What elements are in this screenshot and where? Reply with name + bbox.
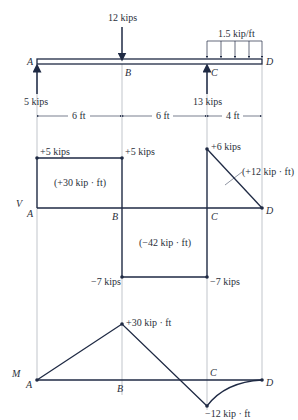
span-AB: 6 ft xyxy=(72,111,86,121)
moment-point-D: D xyxy=(266,378,273,388)
beam-point-A: A xyxy=(27,57,33,67)
moment-diagram xyxy=(37,324,262,406)
shear-point-D: D xyxy=(266,206,273,216)
beam-point-D: D xyxy=(266,57,273,67)
shear-area-AB: (+30 kip · ft) xyxy=(54,178,106,188)
diagram-graphics xyxy=(0,0,298,420)
span-CD: 4 ft xyxy=(226,111,240,121)
beam-point-B: B xyxy=(125,68,131,78)
point-load-label: 12 kips xyxy=(108,13,137,23)
moment-value-B: +30 kip · ft xyxy=(126,318,171,328)
reaction-A-label: 5 kips xyxy=(24,97,48,107)
reaction-C-label: 13 kips xyxy=(193,97,222,107)
beam-diagram: 12 kips 1.5 kip/ft A B C D 5 kips 13 kip… xyxy=(0,0,298,420)
moment-axis-label: M xyxy=(12,369,20,379)
moment-point-C: C xyxy=(210,368,217,378)
shear-area-BC: (−42 kip · ft) xyxy=(139,238,191,248)
shear-value-B-left: +5 kips xyxy=(125,147,155,157)
shear-value-C-left: −7 kips xyxy=(210,277,240,287)
shear-dots xyxy=(35,147,264,279)
shear-diagram xyxy=(37,149,262,277)
distributed-load xyxy=(207,41,262,57)
beam-point-C: C xyxy=(211,68,218,78)
distributed-load-label: 1.5 kip/ft xyxy=(218,29,255,39)
shear-value-C-right: +6 kips xyxy=(211,142,241,152)
shear-value-B-right: −7 kips xyxy=(91,277,121,287)
shear-point-B: B xyxy=(112,212,118,222)
beam xyxy=(37,59,262,64)
moment-point-A: A xyxy=(26,380,32,390)
moment-point-B: B xyxy=(117,384,123,394)
shear-axis-label: V xyxy=(16,199,22,209)
shear-value-A: +5 kips xyxy=(40,147,70,157)
shear-area-CD: (+12 kip · ft) xyxy=(242,167,294,177)
span-BC: 6 ft xyxy=(156,111,170,121)
moment-value-C: −12 kip · ft xyxy=(205,409,250,419)
moment-dots xyxy=(35,322,264,408)
shear-point-C: C xyxy=(211,212,218,222)
shear-point-A: A xyxy=(27,209,33,219)
